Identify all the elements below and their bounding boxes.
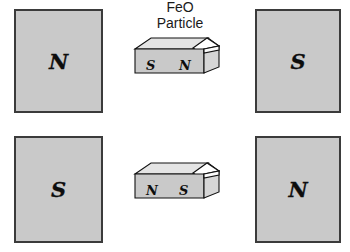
magnet-block-top-right: S [255, 9, 341, 113]
magnet-block-top-left: N [14, 9, 103, 113]
particle-pole-left: S [146, 59, 155, 72]
particle-pole-right: N [179, 59, 191, 72]
magnet-pole-label: N [288, 179, 307, 200]
diagram-canvas: N S S N FeO Particle S N [0, 0, 350, 252]
caption-line-1: FeO [126, 0, 234, 15]
feo-particle-top: S N [133, 36, 225, 82]
feo-particle-caption: FeO Particle [126, 0, 234, 31]
particle-pole-right: S [179, 184, 188, 197]
caption-line-2: Particle [126, 15, 234, 31]
magnet-block-bottom-right: N [255, 136, 341, 243]
feo-particle-bottom: N S [133, 161, 225, 207]
magnet-pole-label: S [290, 51, 305, 72]
particle-pole-left: N [146, 184, 158, 197]
magnet-pole-label: N [49, 51, 68, 72]
magnet-pole-label: S [51, 179, 66, 200]
magnet-block-bottom-left: S [14, 136, 103, 243]
